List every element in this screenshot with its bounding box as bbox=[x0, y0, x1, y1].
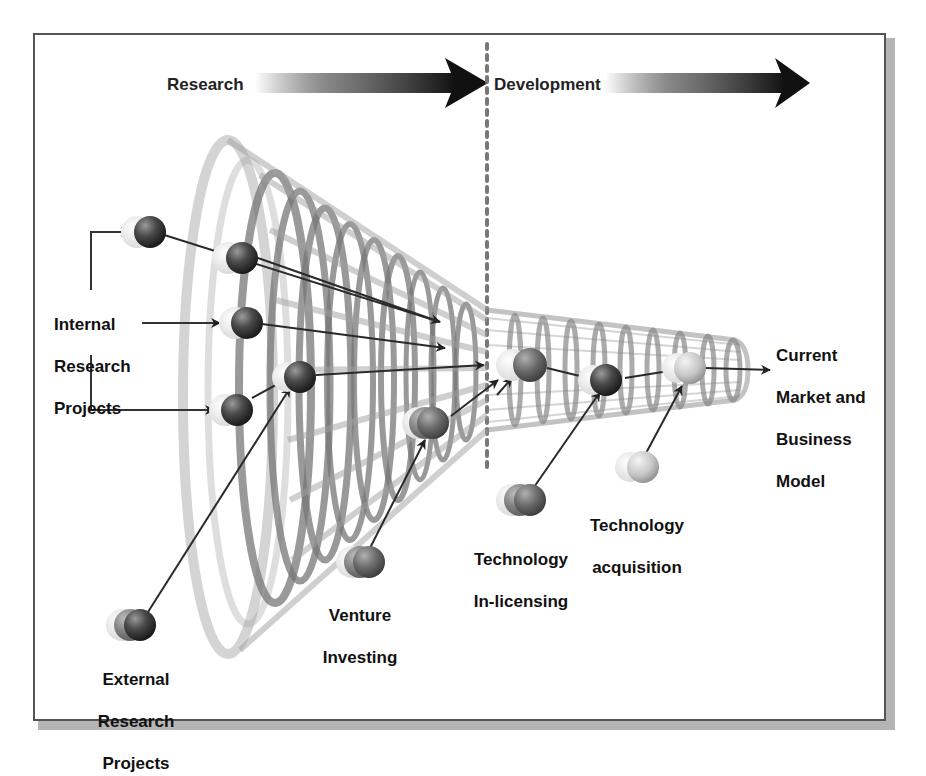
research-arrow bbox=[255, 58, 488, 108]
label-external-research-projects: External Research Projects bbox=[92, 648, 180, 776]
phase-label-development: Development bbox=[494, 75, 601, 95]
development-arrow bbox=[605, 58, 810, 108]
label-technology-in-licensing: Technology In-licensing bbox=[465, 528, 577, 633]
label-technology-acquisition: Technology acquisition bbox=[582, 494, 692, 599]
label-venture-investing: Venture Investing bbox=[312, 584, 408, 689]
phase-label-research: Research bbox=[167, 75, 244, 95]
label-current-market-business-model: Current Market and Business Model bbox=[776, 324, 866, 513]
label-internal-research-projects: Internal Research Projects bbox=[54, 293, 131, 440]
